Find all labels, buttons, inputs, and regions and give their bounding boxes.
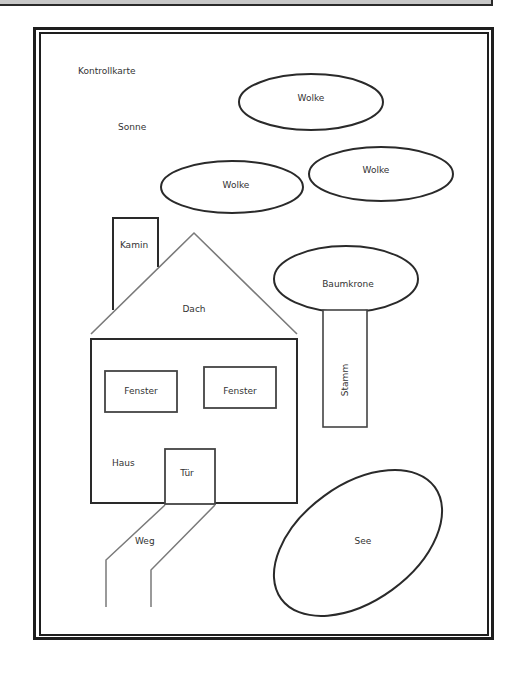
cloud-2[interactable]: Wolke [309,147,453,201]
path-left-edge [106,505,165,607]
chimney-shape [113,218,158,310]
door[interactable]: Tür [165,449,215,504]
label-stamm: Stamm [340,364,350,396]
window-2[interactable]: Fenster [204,367,276,408]
cloud-3[interactable]: Wolke [161,161,303,213]
label-sonne: Sonne [118,122,147,132]
label-wolke-1: Wolke [298,93,325,103]
label-wolke-2: Wolke [363,165,390,175]
label-wolke-3: Wolke [223,180,250,190]
chimney[interactable]: Kamin [113,218,158,310]
label-weg: Weg [135,536,155,546]
label-kamin: Kamin [120,240,148,250]
label-baumkrone: Baumkrone [322,279,374,289]
label-dach: Dach [182,304,205,314]
label-haus: Haus [112,458,135,468]
path-right-edge [151,505,215,607]
cloud-1[interactable]: Wolke [239,74,383,130]
label-see: See [355,536,372,546]
drawing-canvas: Kontrollkarte Sonne Wolke Wolke Wolke Ka… [0,0,532,682]
tree-trunk[interactable]: Stamm [323,310,367,427]
label-tuer: Tür [179,468,194,478]
lake[interactable]: See [247,440,469,646]
label-fenster-1: Fenster [124,386,158,396]
tree-crown[interactable]: Baumkrone [274,246,418,312]
label-kontrollkarte: Kontrollkarte [78,66,136,76]
label-fenster-2: Fenster [223,386,257,396]
path[interactable]: Weg [106,505,215,607]
window-1[interactable]: Fenster [105,371,177,412]
